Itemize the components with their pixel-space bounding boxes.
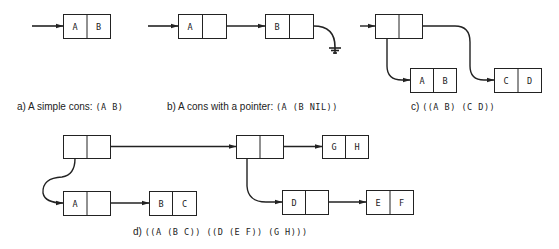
cons-cell-b [266,15,314,39]
caption-b-text: b) A cons with a pointer: [167,101,273,112]
caption-a-expr: (A B) [95,102,123,112]
cdr-label: B [442,76,447,86]
cons-cell-root [64,136,111,159]
cons-cell-diagram: A B A B A B C D A B C G H D E F [0,0,559,249]
caption-b-expr: (A (B NIL)) [276,102,338,112]
caption-a-text: a) A simple cons: [17,101,93,112]
car-arrow [247,159,282,203]
cons-cell-a [64,192,111,216]
car-label: A [187,22,192,32]
panel-c [360,15,542,93]
panel-b [148,15,341,55]
cons-cell-d [283,191,329,215]
cons-cell-g-h [323,136,369,159]
cons-cell-a-b [64,15,111,39]
car-label: B [158,199,163,209]
caption-c: c) ((A B) (C D)) [411,101,495,112]
caption-c-expr: ((A B) (C D)) [422,102,495,112]
cons-cell-second [237,136,284,159]
car-label: G [331,142,336,152]
caption-a: a) A simple cons: (A B) [17,101,123,112]
caption-d-expr: ((A (B C)) ((D (E F)) (G H))) [145,227,308,237]
car-arrow [387,39,410,81]
car-label: D [291,198,296,208]
cons-cell-b-c [150,192,197,216]
car-label: A [72,199,77,209]
nil-pointer [314,26,336,47]
cons-cell-e-f [367,191,414,215]
cdr-label: C [182,199,187,209]
car-label: B [274,22,279,32]
caption-c-text: c) [411,101,419,112]
car-label: E [375,198,380,208]
cdr-label: B [96,22,101,32]
caption-b: b) A cons with a pointer: (A (B NIL)) [167,101,338,112]
cons-cell-a-b [411,69,457,93]
ground-nil-icon [329,47,341,54]
cons-cell-c-d [495,69,542,93]
cdr-label: F [399,198,404,208]
caption-d-text: d) [133,226,142,237]
car-label: A [419,76,424,86]
cdr-label: H [354,142,359,152]
car-label: C [503,76,508,86]
car-label: A [72,22,77,32]
cons-cell-a [179,15,227,39]
cdr-label: D [527,76,532,86]
caption-d: d) ((A (B C)) ((D (E F)) (G H))) [133,226,308,237]
cons-cell-root [376,15,423,39]
